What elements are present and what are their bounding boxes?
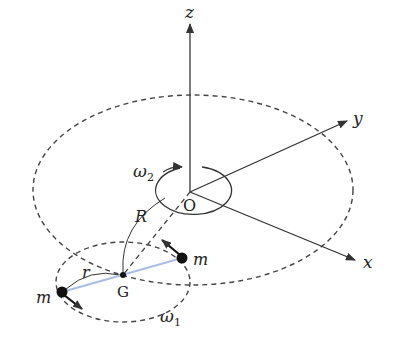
G-label: G (117, 283, 129, 301)
x-label: x (363, 252, 373, 272)
origin-label: O (183, 196, 196, 215)
y-label: y (352, 108, 363, 128)
mass-right-label: m (193, 250, 208, 269)
rotating-dumbbell-diagram: z y x O ω2 ω1 R r G m m (0, 0, 402, 347)
mass-left-label: m (36, 288, 51, 307)
z-label: z (184, 2, 195, 22)
center-of-mass-G (120, 272, 126, 278)
velocity-arrow-right-icon (162, 240, 180, 255)
velocity-arrow-left-icon (64, 295, 82, 309)
x-axis (190, 192, 355, 260)
y-axis (190, 121, 347, 192)
omega2-label: ω2 (133, 161, 154, 184)
r-arc (66, 273, 120, 289)
omega1-label: ω1 (160, 306, 181, 329)
r-label: r (82, 263, 91, 282)
R-label: R (134, 207, 147, 226)
